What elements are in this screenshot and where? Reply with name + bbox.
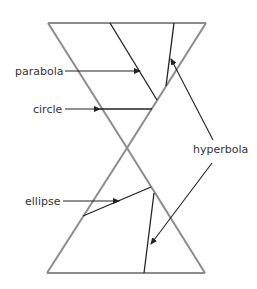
parabola-cut — [110, 23, 157, 100]
arrows — [63, 59, 213, 244]
upper-cone — [48, 23, 206, 148]
hyperbola-arrow-lower — [151, 163, 212, 244]
lower-cone — [47, 148, 205, 273]
hyperbola-cut-lower — [144, 193, 154, 273]
section-lines — [83, 23, 174, 273]
circle-label: circle — [33, 103, 62, 116]
hyperbola-label: hyperbola — [193, 143, 248, 156]
ellipse-label: ellipse — [25, 195, 61, 208]
conic-sections-diagram: parabola circle ellipse hyperbola — [0, 0, 257, 289]
hyperbola-arrow-upper — [171, 59, 213, 140]
parabola-label: parabola — [15, 65, 64, 78]
